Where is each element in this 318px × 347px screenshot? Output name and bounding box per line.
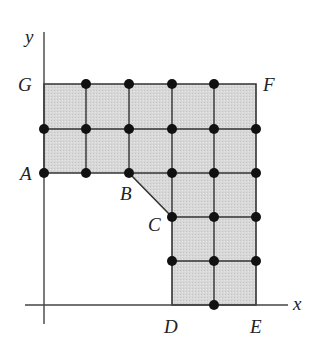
vertex-label-c: C	[148, 214, 161, 235]
vertex-label-a: A	[18, 163, 32, 184]
vertex-label-d: D	[163, 316, 178, 337]
lattice-polygon-diagram: y x G F E D C B A	[0, 0, 318, 347]
vertex-label-g: G	[18, 74, 32, 95]
vertex-label-b: B	[120, 183, 132, 204]
x-axis-label: x	[292, 293, 302, 314]
shaded-region	[44, 84, 256, 305]
vertex-label-f: F	[262, 74, 275, 95]
y-axis-label: y	[23, 26, 34, 47]
vertex-label-e: E	[249, 316, 262, 337]
